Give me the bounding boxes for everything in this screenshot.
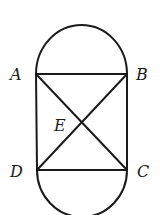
label-c: C [137,162,149,181]
label-e: E [53,116,66,135]
bottom-semicircle-arc [37,170,127,215]
geometry-figure: A B E D C [0,0,163,215]
label-b: B [135,65,148,84]
label-a: A [8,65,22,84]
top-semicircle-arc [36,25,127,74]
segment-da [36,74,37,170]
label-d: D [9,162,23,181]
